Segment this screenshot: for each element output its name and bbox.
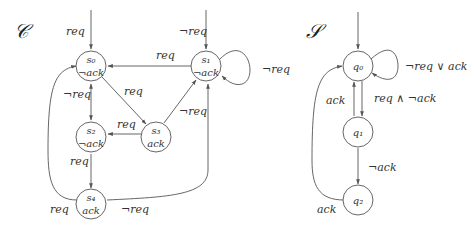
edge-label-s4-s0: req <box>50 203 69 216</box>
node-name: s₁ <box>201 54 210 65</box>
node-label: ¬ack <box>193 67 219 78</box>
node-q1: q₁ <box>343 117 373 147</box>
edge-label-s1-s0: req <box>156 49 175 62</box>
node-name: s₄ <box>86 192 95 203</box>
node-name: s₀ <box>86 54 95 65</box>
edge-label-s1-self: ¬req <box>262 63 290 76</box>
edge-s1-self <box>219 51 250 85</box>
node-name: q₁ <box>353 127 363 138</box>
edge-label-init-s1: ¬req <box>179 25 207 38</box>
edge-label-q0-self: ¬req ∨ ack <box>405 60 468 73</box>
edge-label-s4-s1: ¬req <box>121 203 149 216</box>
edge-q0-self <box>371 50 398 79</box>
node-label: ¬ack <box>78 67 104 78</box>
edge-label-s0-s2: ¬req <box>63 88 91 101</box>
node-name: q₂ <box>353 195 363 206</box>
edge-label-s0-s3: req <box>124 85 143 98</box>
node-label: ack <box>82 205 100 216</box>
edge-label-q0-q1: req ∧ ¬ack <box>374 92 437 105</box>
edge-label-init-s0: req <box>66 25 85 38</box>
node-s3: s₃ ack <box>141 122 171 152</box>
node-s4: s₄ ack <box>76 189 106 219</box>
edge-label-s3-s1: ¬req <box>179 105 207 118</box>
edge-s4-s0 <box>48 66 77 200</box>
node-q2: q₂ <box>343 185 373 215</box>
node-name: s₃ <box>151 125 160 136</box>
automaton-c: 𝒞 req ¬req req ¬req req ¬req ¬req req re… <box>14 10 290 219</box>
automaton-c-title: 𝒞 <box>14 19 34 43</box>
node-q0: q₀ <box>343 51 373 81</box>
node-name: s₂ <box>86 125 95 136</box>
node-s2: s₂ ¬ack <box>76 122 106 152</box>
edge-label-q2-q0: ack <box>317 203 337 216</box>
node-label: ack <box>147 138 165 149</box>
node-label: ¬ack <box>78 138 104 149</box>
edge-label-q1-q2: ¬ack <box>368 161 397 174</box>
automaton-s-title: 𝒮 <box>306 19 327 43</box>
node-s1: s₁ ¬ack <box>191 51 221 81</box>
edge-label-s3-s2: req <box>117 118 136 131</box>
edge-label-q1-q0: ack <box>326 94 346 107</box>
edge-label-s2-s4: req <box>70 155 89 168</box>
node-name: q₀ <box>353 61 363 72</box>
node-s0: s₀ ¬ack <box>76 51 106 81</box>
automata-diagram: 𝒞 req ¬req req ¬req req ¬req ¬req req re… <box>0 0 475 228</box>
edge-q2-q0 <box>312 66 344 200</box>
automaton-s: 𝒮 ¬req ∨ ack req ∧ ¬ack ack ¬ack ack q₀ … <box>306 12 468 216</box>
